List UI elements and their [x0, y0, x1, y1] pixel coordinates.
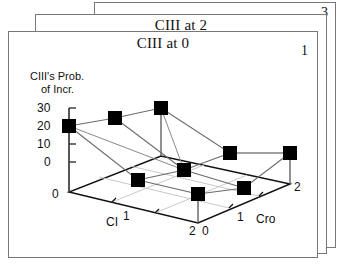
cro-tick-label-0: 0 [202, 224, 209, 238]
z-tick-label-0: 0 [44, 155, 51, 169]
z-tick-label-30: 30 [37, 101, 50, 115]
cro-tick-label-1: 1 [237, 210, 244, 224]
data-point-ci2-cro1[interactable] [223, 146, 237, 160]
data-point-ci0-cro2[interactable] [191, 187, 205, 201]
cro-tick-1 [229, 204, 233, 208]
data-point-ci0-cro1[interactable] [131, 173, 145, 187]
mesh-diag-1 [69, 126, 184, 170]
data-point-ci2-cro2[interactable] [283, 146, 297, 160]
data-point-ci1-cro0[interactable] [108, 111, 122, 125]
panel-ciii-at-0[interactable]: CIII at 0 1 CIII's Prob. of Incr. [8, 31, 318, 258]
data-point-ci0-cro0[interactable] [62, 119, 76, 133]
z-tick-label-10: 10 [37, 137, 50, 151]
data-point-ci1-cro1[interactable] [177, 163, 191, 177]
cro-axis-label: Cro [256, 212, 275, 226]
ci-tick-label-2: 2 [189, 224, 196, 238]
origin-tick-label: 0 [52, 187, 59, 201]
data-point-ci1-cro2[interactable] [237, 181, 251, 195]
chart-plot-area: CIII's Prob. of Incr. [9, 32, 319, 259]
cro-tick-label-2: 2 [294, 180, 301, 194]
panel-stack: 3 CIII at 2 2 CIII at 0 1 CIII's Prob. o… [0, 0, 338, 267]
z-tick-label-20: 20 [37, 119, 50, 133]
ci-axis-label: CI [106, 215, 118, 229]
data-point-ci2-cro0[interactable] [154, 101, 168, 115]
ci-tick-label-1: 1 [123, 209, 130, 223]
